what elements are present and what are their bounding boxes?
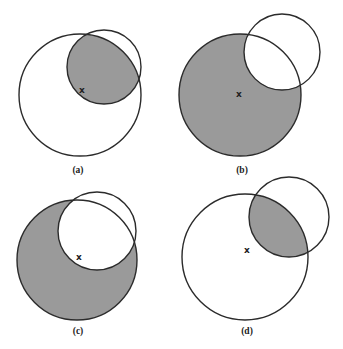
circle-overlap-figure: x (a) x (b) x (c) x (d) [0, 0, 343, 349]
panel-label-b: (b) [236, 165, 248, 176]
center-x-mark: x [236, 89, 242, 99]
center-x-mark: x [79, 85, 85, 95]
center-x-mark: x [76, 252, 82, 262]
center-x-mark: x [244, 245, 250, 255]
panel-label-d: (d) [241, 326, 253, 337]
panel-d: x (d) [182, 177, 329, 337]
panel-c: x (c) [17, 192, 137, 337]
panel-a: x (a) [19, 30, 141, 176]
panel-label-c: (c) [73, 326, 84, 337]
panel-label-a: (a) [72, 165, 83, 176]
panel-b: x (b) [179, 14, 320, 176]
